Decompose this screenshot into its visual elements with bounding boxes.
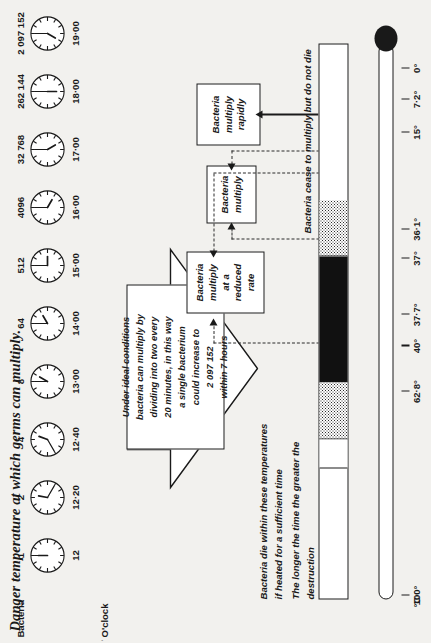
- connector-dashed-reduced-right-h: [213, 173, 214, 251]
- clock-face: [28, 478, 66, 516]
- box-bacteria-multiply: Bacteria multiply: [206, 165, 256, 223]
- clock-face: [28, 188, 66, 226]
- clock-cell: 51215·00: [14, 239, 80, 291]
- thermometer-tick-label: 36·1°: [410, 218, 421, 241]
- box-bacteria-multiply-rapidly: Bacteria multiply rapidly: [196, 83, 260, 145]
- clock-time-label: 16·00: [69, 181, 80, 233]
- annotation-kill-zone: Bacteria die within these temperatures i…: [256, 349, 286, 599]
- thermometer: 100°62·8°40°37·7°37°36·1°15°7·2°0° °C: [372, 15, 402, 629]
- clock-table-header-bacteria: Bacteria: [14, 600, 25, 638]
- clock-face: [28, 362, 66, 400]
- clock-cell: 2 097 15219·00: [14, 7, 80, 59]
- thermometer-tick-label: 37·7°: [410, 303, 421, 326]
- clock-time-label: 14·00: [69, 297, 80, 349]
- thermometer-tick-label: 15°: [410, 125, 421, 139]
- annotation-kill-zone-2: The longer the time the greater the dest…: [288, 349, 318, 599]
- temperature-band-frame: [318, 43, 348, 599]
- arrowhead-multiply-left: [227, 222, 235, 229]
- thermometer-tick: [401, 131, 409, 132]
- thermometer-tick: [401, 313, 409, 314]
- clock-cell: 6414·00: [14, 297, 80, 349]
- clock-face: [28, 420, 66, 458]
- connector-dashed-multiply-left-h: [231, 224, 232, 239]
- thermometer-tick: [401, 98, 409, 99]
- bacteria-count: 64: [14, 297, 25, 349]
- bacteria-count: 1: [14, 529, 25, 581]
- clock-face: [28, 246, 66, 284]
- callout-note-text: Under ideal conditions bacteria can mult…: [126, 284, 224, 449]
- bacteria-count: 4: [14, 413, 25, 465]
- thermometer-tick-label: 7·2°: [410, 90, 421, 108]
- thermometer-scale: 100°62·8°40°37·7°37°36·1°15°7·2°0°: [372, 15, 402, 629]
- poster-canvas: Danger temperature at which germs can mu…: [0, 0, 431, 643]
- clock-time-label: 12·20: [69, 471, 80, 523]
- clock-table: Bacteria O'clock ʻ 112212·20412·40813·00…: [14, 0, 118, 643]
- callout-arrow: Under ideal conditions bacteria can mult…: [126, 243, 258, 493]
- thermometer-tick-label: 62·8°: [410, 380, 421, 403]
- band-segment-slow-growth: [319, 200, 347, 256]
- clock-cell: 412·40: [14, 413, 80, 465]
- band-segment-moderate-growth: [319, 382, 347, 439]
- bacteria-count: 512: [14, 239, 25, 291]
- clock-cell: 813·00: [14, 355, 80, 407]
- clock-time-label: 12: [69, 529, 80, 581]
- clock-cell: 409616·00: [14, 181, 80, 233]
- thermometer-tick: [401, 67, 409, 68]
- clock-face: [28, 536, 66, 574]
- clock-cell: 112: [14, 529, 80, 581]
- thermometer-tick: [401, 228, 409, 229]
- clock-face: [28, 130, 66, 168]
- bacteria-count: 2: [14, 471, 25, 523]
- tick-mark-glyph: ʻ: [100, 639, 107, 641]
- band-segment-hot-growth: [319, 256, 347, 382]
- clock-cell: 212·20: [14, 471, 80, 523]
- thermometer-tick: [401, 344, 409, 345]
- clock-time-label: 13·00: [69, 355, 80, 407]
- clock-time-label: 18·00: [69, 65, 80, 117]
- connector-dashed-multiply-right-h: [231, 150, 232, 164]
- arrowhead-multiply-right: [227, 163, 235, 170]
- clock-face: [28, 72, 66, 110]
- bacteria-count: 4096: [14, 181, 25, 233]
- thermometer-tick-label: 37°: [410, 251, 421, 265]
- band-divider-left: [319, 439, 347, 468]
- bacteria-count: 8: [14, 355, 25, 407]
- clock-table-header-time: O'clock: [98, 603, 109, 637]
- thermometer-tick: [401, 594, 409, 595]
- temperature-band: [318, 15, 348, 629]
- clock-time-label: 17·00: [69, 123, 80, 175]
- clock-cell: 262 14418·00: [14, 65, 80, 117]
- clock-face: [28, 304, 66, 342]
- thermometer-tick-label: 0°: [410, 63, 421, 72]
- thermometer-unit-label: °C: [410, 596, 421, 607]
- arrowhead-rapid: [255, 110, 262, 118]
- clock-face: [28, 14, 66, 52]
- connector-dashed-multiply-left: [231, 238, 319, 239]
- thermometer-tick-label: 40°: [410, 338, 421, 352]
- bacteria-count: 262 144: [14, 65, 25, 117]
- annotation-cold-zone: Bacteria cease to multiply but do not di…: [300, 3, 315, 233]
- thermometer-tick: [401, 390, 409, 391]
- clock-cell: 32 76817·00: [14, 123, 80, 175]
- clock-time-label: 12·40: [69, 413, 80, 465]
- bacteria-count: 32 768: [14, 123, 25, 175]
- thermometer-tick: [401, 257, 409, 258]
- clock-time-label: 19·00: [69, 7, 80, 59]
- poster-viewport: Danger temperature at which germs can mu…: [0, 0, 431, 643]
- clock-time-label: 15·00: [69, 239, 80, 291]
- bacteria-count: 2 097 152: [14, 7, 25, 59]
